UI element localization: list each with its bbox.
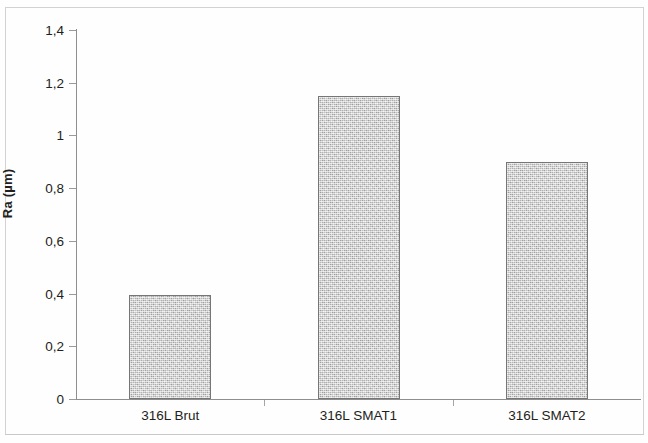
y-tick-label: 1: [4, 128, 64, 143]
y-tick-label-wrap: 0,4: [0, 294, 64, 295]
y-tick-mark: [69, 30, 76, 31]
y-tick-label: 1,2: [4, 75, 64, 90]
y-tick-mark: [69, 188, 76, 189]
x-category-label: 316L Brut: [76, 408, 264, 423]
y-tick-label-wrap: 0,6: [0, 241, 64, 242]
y-tick-mark: [69, 294, 76, 295]
bar: [506, 162, 588, 399]
y-tick-label: 0,2: [4, 339, 64, 354]
y-tick-label: 0,8: [4, 181, 64, 196]
x-tick-mark: [264, 400, 265, 406]
y-tick-mark: [69, 135, 76, 136]
y-tick-label: 0,6: [4, 233, 64, 248]
y-tick-label-wrap: 0,8: [0, 188, 64, 189]
y-tick-label: 1,4: [4, 23, 64, 38]
y-tick-mark: [69, 399, 76, 400]
y-tick-mark: [69, 346, 76, 347]
bar-chart-figure: Ra (µm) 00,20,40,60,811,21,4 316L Brut31…: [0, 0, 648, 443]
y-tick-label-wrap: 1: [0, 135, 64, 136]
y-tick-label-wrap: 1,2: [0, 83, 64, 84]
y-tick-label-wrap: 1,4: [0, 30, 64, 31]
y-tick-label-wrap: 0: [0, 399, 64, 400]
y-tick-mark: [69, 241, 76, 242]
x-category-label: 316L SMAT2: [453, 408, 641, 423]
bar: [129, 295, 211, 399]
bar: [318, 96, 400, 399]
y-tick-label-wrap: 0,2: [0, 346, 64, 347]
y-tick-label: 0: [4, 392, 64, 407]
x-tick-mark: [453, 400, 454, 406]
y-tick-mark: [69, 83, 76, 84]
x-category-label: 316L SMAT1: [264, 408, 452, 423]
y-tick-label: 0,4: [4, 286, 64, 301]
x-axis-line: [76, 399, 641, 400]
